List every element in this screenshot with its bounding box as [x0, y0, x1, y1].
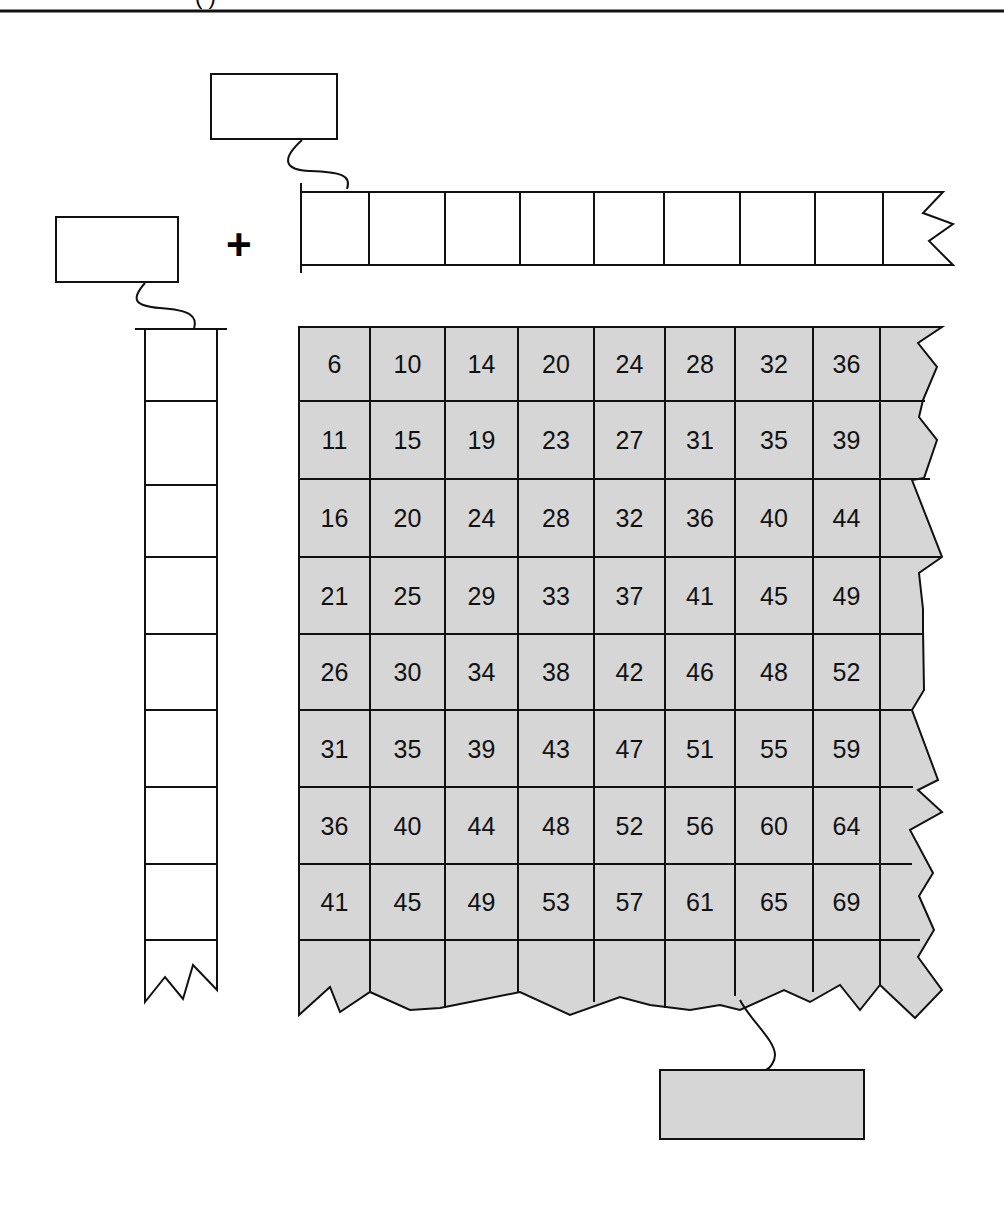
grid-cell-value: 21	[321, 582, 349, 610]
grid-cell-value: 46	[686, 658, 714, 686]
grid-cell-value: 23	[542, 426, 570, 454]
grid-cell-value: 48	[760, 658, 788, 686]
top-strip-cell[interactable]	[520, 192, 594, 265]
result-leader-line	[740, 1000, 775, 1070]
grid-cell-value: 35	[394, 735, 422, 763]
grid-cell-value: 14	[468, 350, 496, 378]
left-strip	[135, 329, 227, 1002]
grid-cell-value: 53	[542, 888, 570, 916]
header-title-fragment: ( )	[195, 0, 216, 9]
grid-cell-value: 45	[760, 582, 788, 610]
grid-cell-value: 41	[686, 582, 714, 610]
grid-cell-value: 20	[542, 350, 570, 378]
top-strip-cell[interactable]	[815, 192, 883, 265]
grid-cell-value: 31	[321, 735, 349, 763]
grid-cell-value: 10	[394, 350, 422, 378]
top-strip-cell[interactable]	[740, 192, 815, 265]
grid-cell-value: 40	[760, 504, 788, 532]
top-strip-cell[interactable]	[594, 192, 664, 265]
grid-cell-value: 45	[394, 888, 422, 916]
grid-cell-value: 57	[616, 888, 644, 916]
grid-cell-value: 25	[394, 582, 422, 610]
top-strip-cell[interactable]	[445, 192, 520, 265]
grid-cell-value: 39	[833, 426, 861, 454]
grid-cell-value: 52	[833, 658, 861, 686]
grid-cell-value: 27	[616, 426, 644, 454]
grid-cell-value: 64	[833, 812, 861, 840]
grid-cell-value: 48	[542, 812, 570, 840]
result-label-box[interactable]	[660, 1070, 864, 1139]
grid-cell-value: 40	[394, 812, 422, 840]
grid-cell-value: 33	[542, 582, 570, 610]
grid-cell-value: 20	[394, 504, 422, 532]
grid-cell-value: 41	[321, 888, 349, 916]
grid-cell-value: 56	[686, 812, 714, 840]
grid-cell-value: 32	[760, 350, 788, 378]
grid-cell-value: 42	[616, 658, 644, 686]
left-leader-line	[137, 283, 195, 329]
addition-table-diagram: ( ) +	[0, 0, 1004, 1209]
grid-cell-value: 32	[616, 504, 644, 532]
grid-cell-value: 51	[686, 735, 714, 763]
top-strip-cells	[301, 192, 883, 265]
grid-cell-value: 19	[468, 426, 496, 454]
grid-cell-value: 65	[760, 888, 788, 916]
top-strip-cell[interactable]	[369, 192, 445, 265]
grid-cell-value: 38	[542, 658, 570, 686]
grid-cell-value: 34	[468, 658, 496, 686]
grid-cell-value: 24	[468, 504, 496, 532]
grid-cell-value: 49	[833, 582, 861, 610]
grid-cell-value: 60	[760, 812, 788, 840]
grid-cell-value: 49	[468, 888, 496, 916]
grid-cell-value: 30	[394, 658, 422, 686]
grid-cell-value: 43	[542, 735, 570, 763]
grid-cell-value: 24	[616, 350, 644, 378]
grid-cell-value: 36	[686, 504, 714, 532]
plus-operator: +	[226, 220, 252, 269]
grid-cell-value: 35	[760, 426, 788, 454]
grid-cell-value: 47	[616, 735, 644, 763]
grid-cell-value: 15	[394, 426, 422, 454]
grid-cell-value: 36	[833, 350, 861, 378]
top-strip-cell[interactable]	[664, 192, 740, 265]
grid-cell-value: 69	[833, 888, 861, 916]
grid-cell-value: 39	[468, 735, 496, 763]
left-label-box[interactable]	[56, 217, 178, 282]
grid-cell-value: 28	[542, 504, 570, 532]
grid-cell-value: 59	[833, 735, 861, 763]
grid-cell-value: 36	[321, 812, 349, 840]
grid-cell-value: 6	[328, 350, 342, 378]
top-leader-line	[288, 140, 348, 189]
grid-cell-value: 52	[616, 812, 644, 840]
grid-cell-value: 37	[616, 582, 644, 610]
top-label-box[interactable]	[211, 74, 337, 139]
grid-cell-value: 28	[686, 350, 714, 378]
grid-cell-value: 61	[686, 888, 714, 916]
grid-cell-value: 44	[833, 504, 861, 532]
top-strip-cell[interactable]	[301, 192, 369, 265]
grid-cell-value: 31	[686, 426, 714, 454]
grid-cell-value: 29	[468, 582, 496, 610]
grid-cell-value: 11	[322, 426, 348, 454]
grid-cell-value: 44	[468, 812, 496, 840]
grid-cell-value: 16	[321, 504, 349, 532]
grid-cell-value: 26	[321, 658, 349, 686]
grid-cell-value: 55	[760, 735, 788, 763]
